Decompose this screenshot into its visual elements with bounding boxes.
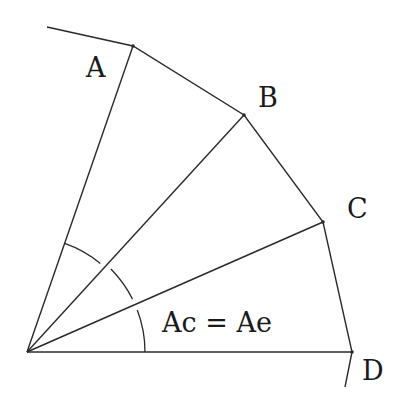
angle-arc-1 — [65, 243, 101, 263]
vertex-dot-a — [131, 44, 135, 48]
sector-diagram: A B C D Ac = Ae — [0, 0, 399, 409]
vertex-dot-d — [350, 350, 354, 354]
angle-arc-2 — [111, 269, 133, 299]
vertex-dot-c — [321, 220, 325, 224]
point-label-c: C — [347, 193, 368, 224]
angle-arc-3 — [137, 310, 145, 352]
vertex-dot-b — [242, 113, 246, 117]
point-label-d: D — [362, 355, 384, 386]
equal-areas-equation: Ac = Ae — [161, 307, 272, 338]
point-label-b: B — [258, 82, 278, 113]
point-label-a: A — [85, 52, 106, 83]
ray-a — [27, 46, 133, 352]
